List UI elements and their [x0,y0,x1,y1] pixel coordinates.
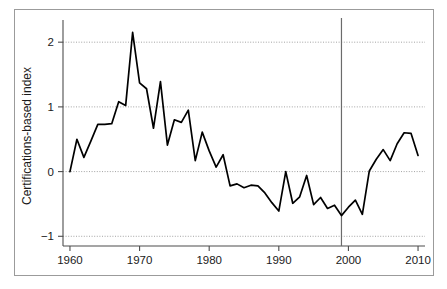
data-series-certifications-based-index [70,32,418,215]
y-tick-label-2: 2 [48,36,54,48]
x-tick-label-1980: 1980 [196,254,222,266]
line-chart: −1012196019701980199020002010Certificati… [0,0,447,289]
x-tick-label-2000: 2000 [336,254,362,266]
x-tick-label-2010: 2010 [405,254,431,266]
y-tick-label-−1: −1 [41,230,54,242]
x-tick-label-1990: 1990 [266,254,292,266]
y-tick-label-0: 0 [48,166,54,178]
x-tick-label-1970: 1970 [127,254,153,266]
y-tick-label-1: 1 [48,101,54,113]
x-tick-label-1960: 1960 [57,254,83,266]
figure-container: −1012196019701980199020002010Certificati… [0,0,447,289]
y-axis-title: Certifications-based index [20,67,34,205]
